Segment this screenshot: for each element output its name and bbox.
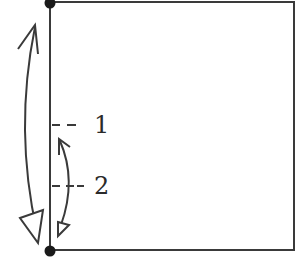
small-curved-arrow [58,139,70,236]
marker-2: 2 [52,172,109,200]
panel-rectangle [50,2,294,250]
top-pivot-dot [45,0,56,9]
label-2: 2 [94,172,109,200]
diagram-canvas: 1 2 [0,0,298,268]
bottom-pivot-dot [45,246,56,257]
marker-1: 1 [52,111,109,139]
label-1: 1 [94,111,109,139]
large-curved-arrow [18,25,43,243]
